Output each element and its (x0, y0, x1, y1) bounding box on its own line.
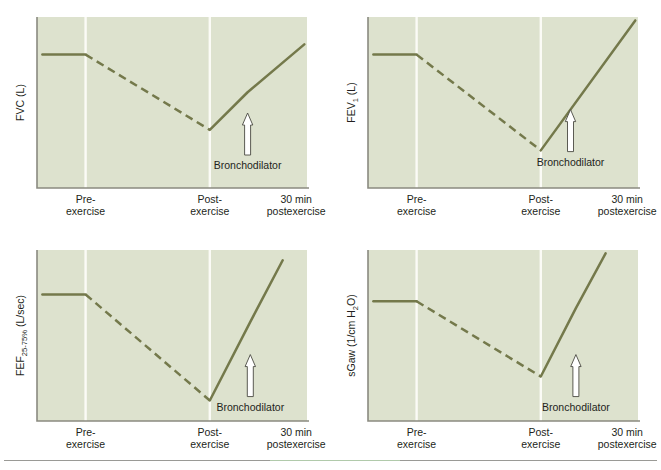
plot-area-background (37, 250, 307, 421)
annotation-bronchodilator-label: Bronchodilator (542, 401, 610, 413)
xtick-label-0-line2: exercise (397, 205, 436, 217)
xtick-label-2-line2: postexercise (598, 438, 657, 450)
xtick-label-0-line1: Pre- (407, 426, 427, 438)
chart-svg-fvc: BronchodilatorPre-exercisePost-exercise3… (0, 0, 330, 232)
y-axis-label: FVC (L) (14, 84, 26, 121)
y-axis-label: FEF25-75% (L/sec) (14, 295, 29, 376)
chart-svg-fef2575: BronchodilatorPre-exercisePost-exercise3… (0, 233, 330, 465)
xtick-label-0-line1: Pre- (76, 193, 96, 205)
y-axis-label: FEV1 (L) (345, 82, 360, 122)
xtick-label-1-line2: exercise (521, 438, 560, 450)
xtick-label-1-line1: Post- (529, 193, 554, 205)
xtick-label-1-line2: exercise (190, 205, 229, 217)
y-axis-label: sGaw (1/cm H2O) (345, 294, 360, 376)
xtick-label-2-line1: 30 min (611, 426, 643, 438)
annotation-bronchodilator-label: Bronchodilator (216, 401, 284, 413)
xtick-label-1-line1: Post- (529, 426, 554, 438)
chart-panel-fef2575: BronchodilatorPre-exercisePost-exercise3… (0, 233, 330, 465)
xtick-label-0-line1: Pre- (76, 426, 96, 438)
chart-panel-sgaw: BronchodilatorPre-exercisePost-exercise3… (331, 233, 661, 465)
xtick-label-0-line2: exercise (397, 438, 436, 450)
xtick-label-2-line2: postexercise (267, 438, 326, 450)
xtick-label-2-line1: 30 min (280, 426, 312, 438)
xtick-label-1-line2: exercise (190, 438, 229, 450)
xtick-label-2-line1: 30 min (611, 193, 643, 205)
xtick-label-1-line1: Post- (198, 193, 223, 205)
xtick-label-2-line1: 30 min (280, 193, 312, 205)
chart-svg-fev1: BronchodilatorPre-exercisePost-exercise3… (331, 0, 661, 232)
annotation-bronchodilator-label: Bronchodilator (214, 159, 282, 171)
xtick-label-2-line2: postexercise (267, 205, 326, 217)
xtick-label-1-line2: exercise (521, 205, 560, 217)
plot-area-background (368, 250, 638, 421)
figure-exercise-bronchospasm: BronchodilatorPre-exercisePost-exercise3… (0, 0, 661, 470)
chart-svg-sgaw: BronchodilatorPre-exercisePost-exercise3… (331, 233, 661, 465)
xtick-label-2-line2: postexercise (598, 205, 657, 217)
xtick-label-0-line1: Pre- (407, 193, 427, 205)
xtick-label-1-line1: Post- (198, 426, 223, 438)
xtick-label-0-line2: exercise (66, 438, 105, 450)
footer-divider-tint (270, 460, 400, 461)
chart-panel-fev1: BronchodilatorPre-exercisePost-exercise3… (331, 0, 661, 232)
chart-panel-fvc: BronchodilatorPre-exercisePost-exercise3… (0, 0, 330, 232)
xtick-label-0-line2: exercise (66, 205, 105, 217)
annotation-bronchodilator-label: Bronchodilator (537, 156, 605, 168)
